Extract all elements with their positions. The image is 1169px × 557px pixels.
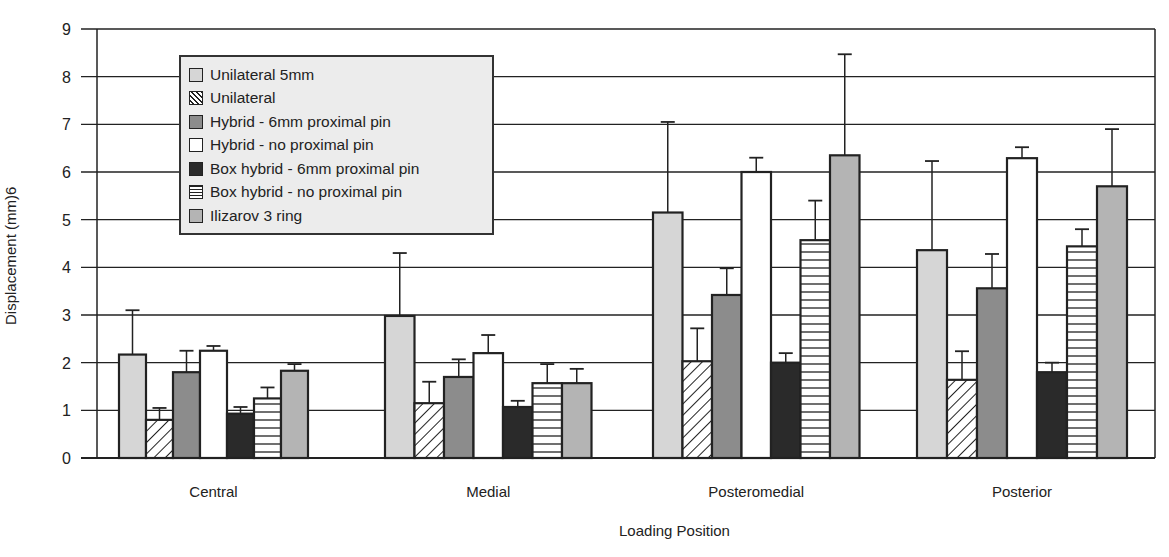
legend-item: Box hybrid - 6mm proximal pin: [189, 157, 492, 181]
bar: [474, 353, 504, 458]
legend-item: Unilateral: [189, 87, 492, 111]
bar-group-medial: [385, 253, 592, 458]
bar: [771, 363, 801, 458]
legend-label: Box hybrid - 6mm proximal pin: [210, 160, 419, 178]
bar: [385, 316, 415, 458]
y-tick-label: 9: [62, 21, 71, 38]
bar: [533, 383, 563, 458]
bar: [1007, 158, 1037, 458]
legend-item: Box hybrid - no proximal pin: [189, 181, 492, 205]
bar: [977, 288, 1007, 458]
bar: [444, 377, 474, 458]
y-tick-label: 8: [62, 69, 71, 86]
bar-group-posteromedial: [653, 54, 860, 458]
bar: [1067, 246, 1097, 458]
legend: Unilateral 5mmUnilateralHybrid - 6mm pro…: [179, 55, 494, 235]
bar: [503, 407, 533, 458]
bar: [562, 383, 592, 458]
legend-label: Unilateral: [210, 89, 275, 107]
x-tick-label: Posteromedial: [708, 483, 804, 500]
x-axis-tick-labels: CentralMedialPosteromedialPosterior: [189, 483, 1052, 500]
bar: [917, 250, 947, 458]
bar-chart: 0123456789 CentralMedialPosteromedialPos…: [0, 0, 1169, 557]
legend-label: Hybrid - no proximal pin: [210, 136, 374, 154]
legend-swatch-icon: [189, 185, 203, 199]
x-tick-label: Medial: [466, 483, 510, 500]
y-tick-label: 5: [62, 212, 71, 229]
legend-swatch-icon: [189, 91, 203, 105]
legend-swatch-icon: [189, 162, 203, 176]
legend-item: Ilizarov 3 ring: [189, 204, 492, 228]
bar: [742, 172, 772, 458]
y-tick-label: 1: [62, 402, 71, 419]
bar-group-posterior: [917, 129, 1127, 458]
legend-swatch-icon: [189, 115, 203, 129]
bar-group-central: [119, 310, 308, 458]
legend-swatch-icon: [189, 209, 203, 223]
bar: [227, 414, 254, 458]
legend-label: Box hybrid - no proximal pin: [210, 183, 402, 201]
x-tick-label: Central: [189, 483, 237, 500]
y-tick-label: 2: [62, 355, 71, 372]
y-tick-label: 3: [62, 307, 71, 324]
bar: [830, 155, 860, 458]
bar: [1097, 186, 1127, 458]
bar: [801, 240, 831, 458]
bar: [281, 371, 308, 458]
y-axis-label: Displacement (mm)6: [2, 187, 19, 325]
y-tick-label: 7: [62, 116, 71, 133]
bar: [683, 361, 713, 458]
bar: [200, 351, 227, 458]
bar: [254, 398, 281, 458]
legend-item: Hybrid - 6mm proximal pin: [189, 110, 492, 134]
legend-swatch-icon: [189, 68, 203, 82]
legend-item: Hybrid - no proximal pin: [189, 134, 492, 158]
bar: [947, 380, 977, 458]
chart-canvas: 0123456789 CentralMedialPosteromedialPos…: [0, 0, 1169, 557]
bar: [1037, 372, 1067, 458]
bar: [653, 213, 683, 458]
bar: [712, 295, 742, 458]
bar: [173, 372, 200, 458]
y-tick-label: 0: [62, 450, 71, 467]
y-tick-label: 4: [62, 259, 71, 276]
x-axis-label: Loading Position: [0, 522, 1169, 539]
bar: [415, 403, 445, 458]
x-tick-label: Posterior: [992, 483, 1052, 500]
legend-item: Unilateral 5mm: [189, 63, 492, 87]
bar: [119, 355, 146, 458]
bar: [146, 420, 173, 458]
legend-swatch-icon: [189, 138, 203, 152]
legend-label: Unilateral 5mm: [210, 66, 314, 84]
legend-label: Ilizarov 3 ring: [210, 207, 302, 225]
legend-label: Hybrid - 6mm proximal pin: [210, 113, 391, 131]
y-tick-label: 6: [62, 164, 71, 181]
